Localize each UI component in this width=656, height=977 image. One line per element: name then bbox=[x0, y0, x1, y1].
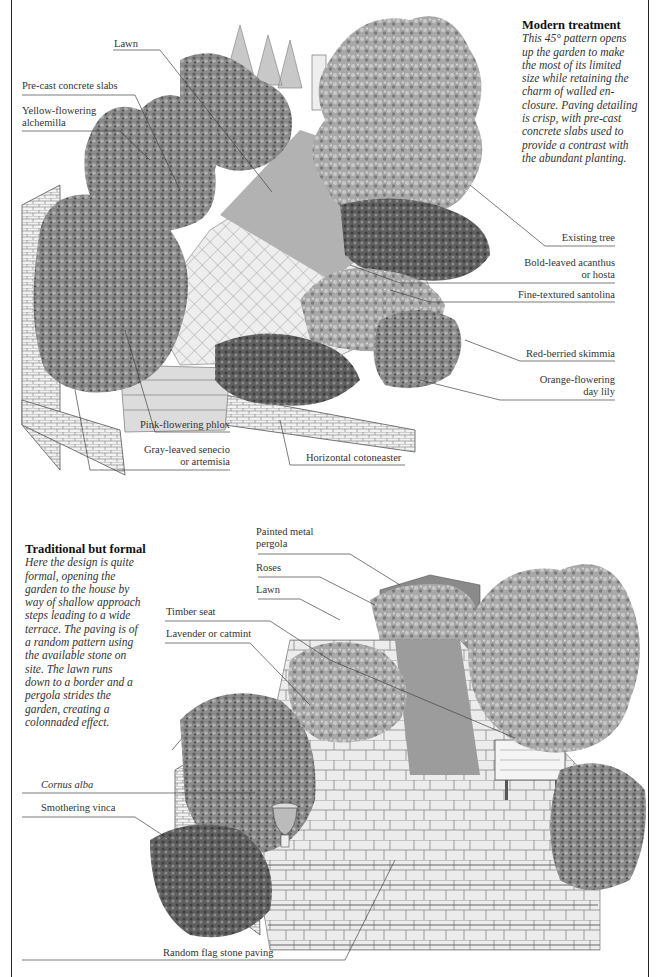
label-lawn-bottom: Lawn bbox=[256, 584, 280, 596]
label-precast-concrete-slabs: Pre-cast concrete slabs bbox=[22, 80, 118, 92]
caption-line: garden, creating a bbox=[25, 703, 155, 716]
caption-modern-treatment: Modern treatment This 45° pattern opens … bbox=[522, 19, 648, 165]
left-shrub-mass bbox=[34, 192, 188, 393]
caption-line: steps leading to a wide bbox=[25, 609, 155, 622]
label-timber-seat: Timber seat bbox=[166, 606, 216, 618]
caption-line: size while retaining the bbox=[522, 72, 648, 85]
label-alchemilla-line1: Yellow-flowering bbox=[22, 105, 96, 117]
label-lawn: Lawn bbox=[114, 38, 138, 50]
label-acanthus-line1: Bold-leaved acanthus bbox=[524, 257, 615, 269]
caption-line: Here the design is quite bbox=[25, 556, 155, 569]
label-santolina: Fine-textured santolina bbox=[518, 289, 615, 301]
label-acanthus-line2: or hosta bbox=[581, 269, 615, 281]
label-pergola-line2: pergola bbox=[256, 538, 287, 550]
caption-traditional-formal: Traditional but formal Here the design i… bbox=[25, 543, 155, 729]
label-existing-tree: Existing tree bbox=[562, 232, 615, 244]
caption-line: site. The lawn runs bbox=[25, 663, 155, 676]
skimmia-daylily bbox=[374, 310, 462, 388]
caption-line: concrete slabs used to bbox=[522, 125, 648, 138]
label-senecio-line1: Gray-leaved senecio bbox=[144, 444, 230, 456]
right-tree bbox=[468, 564, 640, 752]
caption-line: a random pattern using bbox=[25, 636, 155, 649]
caption-line: provide a contrast with bbox=[522, 139, 648, 152]
label-cornus-alba: Cornus alba bbox=[41, 779, 93, 791]
label-lavender: Lavender or catmint bbox=[166, 628, 251, 640]
caption-line: up the garden to make bbox=[522, 46, 648, 59]
caption-line: This 45° pattern opens bbox=[522, 32, 648, 45]
brick-wall-front-right bbox=[225, 395, 415, 452]
caption-line: garden to the house by bbox=[25, 583, 155, 596]
caption-line: down to a border and a bbox=[25, 676, 155, 689]
caption-line: closure. Paving detailing bbox=[522, 99, 648, 112]
caption-line: colonnaded effect. bbox=[25, 716, 155, 729]
caption-line: the most of its limited bbox=[522, 59, 648, 72]
caption-line: the available stone on bbox=[25, 649, 155, 662]
caption-line: is crisp, with pre-cast bbox=[522, 112, 648, 125]
existing-tree bbox=[313, 16, 483, 220]
label-alchemilla-line2: alchemilla bbox=[22, 117, 66, 129]
caption-title: Traditional but formal bbox=[25, 543, 155, 556]
caption-line: formal, opening the bbox=[25, 570, 155, 583]
label-senecio-line2: or artemisia bbox=[180, 456, 230, 468]
label-smothering-vinca: Smothering vinca bbox=[41, 802, 115, 814]
right-lower-shrubs bbox=[550, 763, 646, 890]
label-pergola-line1: Painted metal bbox=[256, 526, 313, 538]
label-cotoneaster: Horizontal cotoneaster bbox=[306, 452, 401, 464]
caption-title: Modern treatment bbox=[522, 19, 648, 32]
label-daylily-line1: Orange-flowering bbox=[540, 374, 615, 386]
label-roses: Roses bbox=[256, 562, 281, 574]
caption-line: charm of walled en- bbox=[522, 85, 648, 98]
label-skimmia: Red-berried skimmia bbox=[526, 348, 615, 360]
label-daylily-line2: day lily bbox=[583, 386, 615, 398]
caption-line: the abundant planting. bbox=[522, 152, 648, 165]
caption-line: terrace. The paving is of bbox=[25, 623, 155, 636]
label-flagstone-paving: Random flag stone paving bbox=[163, 947, 274, 959]
label-phlox: Pink-flowering phlox bbox=[140, 419, 230, 431]
caption-line: pergola strides the bbox=[25, 689, 155, 702]
caption-line: way of shallow approach bbox=[25, 596, 155, 609]
